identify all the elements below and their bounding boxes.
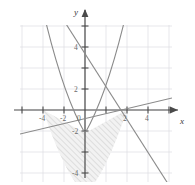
origin-label: 0 (77, 114, 81, 123)
x-tick-label-neg2: -2 (60, 114, 66, 123)
x-tick-label-neg4: -4 (39, 114, 45, 123)
plot-canvas: -4 -2 2 4 4 2 -2 -4 0 x y (0, 0, 195, 185)
y-tick-label-neg4: -4 (72, 169, 78, 178)
y-tick-label-2: 2 (74, 85, 78, 94)
x-tick-label-2: 2 (123, 114, 127, 123)
x-axis-arrow (170, 107, 178, 114)
y-tick-label-neg2: -2 (72, 127, 78, 136)
coordinate-graph-figure: -4 -2 2 4 4 2 -2 -4 0 x y (0, 0, 195, 185)
x-tick-label-4: 4 (145, 114, 149, 123)
y-axis-label: y (73, 7, 78, 17)
y-tick-label-4: 4 (74, 43, 78, 52)
y-axis-arrow (82, 9, 89, 17)
x-axis-label: x (179, 116, 184, 126)
